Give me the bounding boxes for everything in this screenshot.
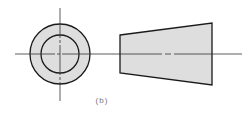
technical-drawing (0, 0, 250, 123)
end-view (15, 8, 120, 101)
figure-caption: (b) (88, 96, 116, 105)
side-view (120, 23, 242, 85)
